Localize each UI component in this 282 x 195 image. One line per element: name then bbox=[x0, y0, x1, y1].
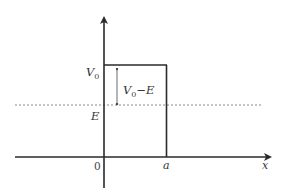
energy-label: E bbox=[90, 109, 100, 123]
barrier-height-label: V0 bbox=[86, 65, 99, 81]
x-axis-label: x bbox=[262, 159, 269, 172]
barrier-diagram: V0 V0−E E 0 a x bbox=[0, 0, 282, 195]
origin-label: 0 bbox=[94, 160, 101, 172]
difference-label: V0−E bbox=[123, 83, 155, 99]
barrier-width-label: a bbox=[163, 159, 170, 172]
